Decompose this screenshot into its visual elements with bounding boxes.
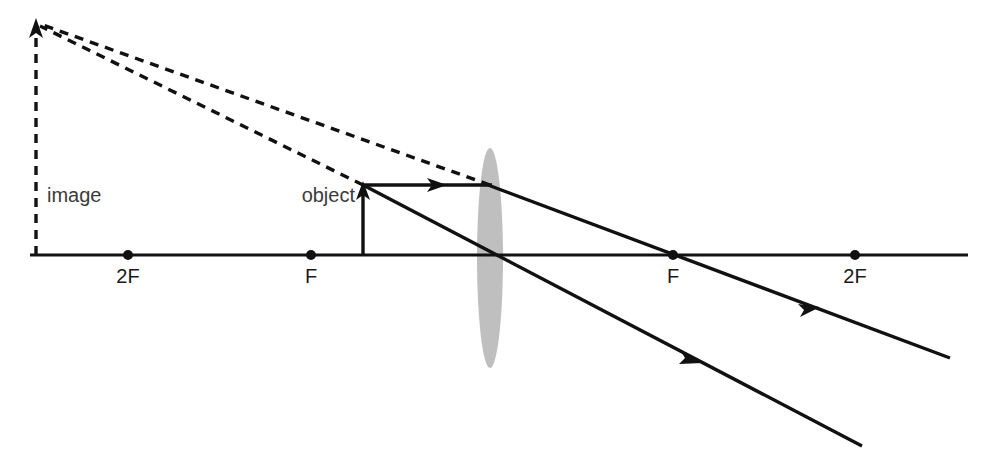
focal-dot-2f-right bbox=[850, 250, 860, 260]
center-ray bbox=[363, 185, 862, 446]
parallel-refracted-ray-arrow bbox=[798, 304, 820, 317]
center-ray-arrow bbox=[679, 350, 702, 364]
focal-dot-2f-left bbox=[123, 250, 133, 260]
virtual-ray-lower bbox=[40, 26, 363, 185]
label-2f-right: 2F bbox=[843, 265, 866, 287]
label-2f-left: 2F bbox=[116, 265, 139, 287]
ray-diagram-canvas: 2F F F 2F image object bbox=[0, 0, 985, 469]
label-f-left: F bbox=[305, 265, 317, 287]
ray-diagram: 2F F F 2F image object bbox=[0, 0, 985, 469]
parallel-refracted-ray bbox=[488, 185, 950, 358]
focal-dot-f-left bbox=[306, 250, 316, 260]
object-label: object bbox=[302, 184, 356, 206]
image-label: image bbox=[47, 184, 101, 206]
virtual-ray-upper bbox=[40, 24, 490, 185]
label-f-right: F bbox=[667, 265, 679, 287]
